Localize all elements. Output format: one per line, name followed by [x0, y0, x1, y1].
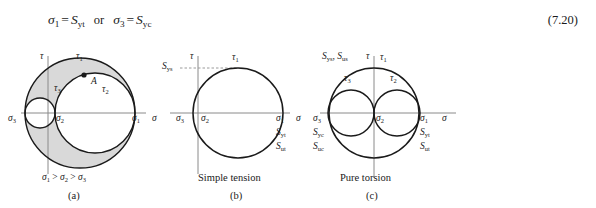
label-sys-sus-c: Sys, Sus	[322, 52, 348, 62]
label-sigma-3-b: σ3	[176, 114, 184, 124]
equation-sigma3: σ3	[113, 12, 124, 27]
equation-syt: Syt	[71, 12, 85, 27]
label-sigma-1-a: σ1	[132, 114, 140, 124]
label-tau-1-a: τ1	[76, 52, 83, 62]
label-sut-c: Sut	[420, 142, 430, 152]
panel-letter-b: (b)	[230, 190, 242, 201]
label-sigma-2-a: σ2	[56, 114, 64, 124]
axis-label-tau-b: τ	[190, 52, 193, 62]
label-tau-2-c: τ2	[390, 74, 397, 84]
label-sigma-2-b: σ2	[201, 114, 209, 124]
label-sigma-3-c: σ3	[313, 114, 321, 124]
axis-label-sigma-c: σ	[442, 114, 447, 124]
label-sys-b: Sys	[162, 62, 173, 72]
figure-page: σ1=Sytorσ3=Syc (7.20)	[0, 0, 596, 208]
label-tau-3-a: τ3	[54, 84, 61, 94]
axis-label-tau-c: τ	[366, 52, 369, 62]
mohr-circle-diagram-a	[18, 52, 178, 208]
equation-row: σ1=Sytorσ3=Syc (7.20)	[0, 12, 596, 34]
axis-label-sigma-b: σ	[296, 114, 301, 124]
label-suc-c: Suc	[313, 142, 324, 152]
caption-condition-c: Pure torsion	[340, 172, 391, 183]
caption-condition-a: σ1 > σ2 > σ3	[42, 172, 86, 183]
caption-condition-b: Simple tension	[198, 172, 261, 183]
label-tau-2-a: τ2	[102, 85, 109, 95]
label-sigma-1-b: σ1	[276, 114, 284, 124]
label-tau-1-c: τ1	[380, 53, 387, 63]
label-sigma-1-c: σ1	[420, 114, 428, 124]
axis-label-tau-a: τ	[40, 52, 43, 62]
shaded-failure-region	[18, 52, 178, 208]
equation-equals-2: =	[124, 12, 136, 27]
label-sigma-2-c: σ2	[376, 114, 384, 124]
equation-or: or	[85, 13, 113, 27]
label-syt-b: Syt	[276, 128, 286, 138]
axis-label-sigma-a: σ	[152, 114, 157, 124]
stress-point-A-marker	[81, 72, 86, 77]
figure-panel-c: Sys, Sus τ τ1 τ3 τ2 σ3 σ2 σ1 σ Syc Suc S…	[316, 52, 516, 208]
panel-letter-c: (c)	[366, 190, 378, 201]
label-tau-3-c: τ3	[344, 74, 351, 84]
figure-panel-b: τ τ1 Sys σ3 σ2 σ1 σ Syt Sut Simple tensi…	[160, 52, 330, 208]
mohr-circle-diagram-b	[160, 52, 330, 208]
label-tau-1-b: τ1	[232, 53, 239, 63]
equation-sigma1: σ1	[48, 12, 59, 27]
label-point-a: A	[91, 77, 97, 87]
panel-letter-a: (a)	[68, 190, 80, 201]
equation-body: σ1=Sytorσ3=Syc	[48, 12, 152, 29]
figure-panel-a: τ τ1 A τ2 τ3 σ1 σ σ2 σ3 σ1 > σ2 > σ3 (a)	[18, 52, 178, 208]
label-sigma-3-a: σ3	[8, 114, 16, 124]
label-syc-c: Syc	[313, 128, 324, 138]
equation-syc: Syc	[136, 12, 151, 27]
label-sut-b: Sut	[276, 142, 286, 152]
label-syt-c: Syt	[420, 128, 430, 138]
equation-number: (7.20)	[548, 13, 578, 28]
equation-equals-1: =	[59, 12, 71, 27]
